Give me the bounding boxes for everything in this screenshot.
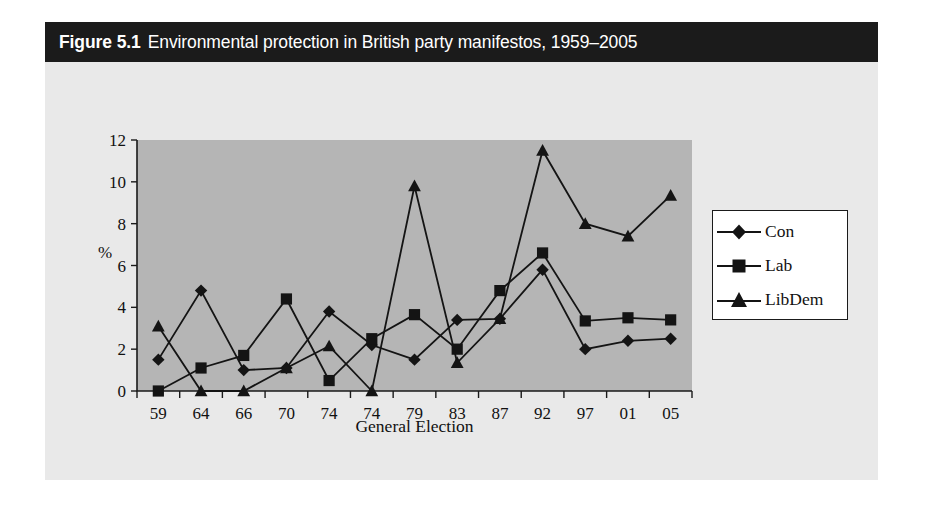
svg-text:10: 10 [109, 173, 126, 192]
data-point-lab-74 [366, 333, 377, 344]
data-point-lab-59 [153, 385, 164, 396]
data-point-con-64 [195, 284, 207, 296]
series-lab [153, 247, 677, 396]
data-point-con-66 [238, 364, 250, 376]
figure-number: Figure 5.1 [59, 32, 141, 53]
data-point-libdem-05 [664, 189, 677, 201]
data-point-con-97 [579, 343, 591, 355]
legend-marker-diamond-icon [713, 217, 765, 247]
data-point-libdem-59 [152, 320, 165, 332]
data-point-lab-70 [281, 293, 292, 304]
data-point-lab-92 [537, 247, 548, 258]
chart-series-group [152, 144, 677, 397]
svg-text:12: 12 [109, 131, 126, 150]
data-point-lab-74 [324, 375, 335, 386]
legend-item-libdem: LibDem [713, 283, 849, 317]
data-point-libdem-97 [579, 217, 592, 229]
chart-stage: 024681012 59646670747479838792970105 % G… [45, 62, 878, 480]
figure-container: Figure 5.1 Environmental protection in B… [45, 22, 878, 480]
y-axis-title: % [98, 243, 112, 262]
y-axis-tick-labels: 024681012 [109, 131, 127, 401]
svg-text:8: 8 [118, 215, 127, 234]
svg-text:2: 2 [118, 340, 127, 359]
svg-text:0: 0 [118, 382, 127, 401]
legend-label-lab: Lab [765, 257, 792, 275]
x-axis-title: General Election [137, 416, 692, 437]
data-point-lab-79 [409, 309, 420, 320]
data-point-lab-87 [494, 285, 505, 296]
legend-item-con: Con [713, 215, 849, 249]
svg-text:4: 4 [118, 298, 127, 317]
legend-marker-square-icon [713, 251, 765, 281]
data-point-lab-66 [238, 350, 249, 361]
data-point-con-59 [152, 353, 164, 365]
figure-title-bar: Figure 5.1 Environmental protection in B… [45, 22, 878, 62]
legend-label-con: Con [765, 223, 794, 241]
legend-marker-triangle-icon [713, 285, 765, 315]
figure-title-text: Environmental protection in British part… [148, 32, 638, 53]
data-point-lab-01 [622, 312, 633, 323]
data-point-con-05 [664, 333, 676, 345]
data-point-lab-64 [195, 362, 206, 373]
data-point-lab-05 [665, 314, 676, 325]
legend-label-libdem: LibDem [765, 291, 823, 309]
data-point-libdem-92 [536, 144, 549, 156]
data-point-lab-97 [580, 315, 591, 326]
data-point-libdem-74 [323, 340, 336, 352]
chart-legend: Con Lab LibDem [712, 210, 848, 320]
data-point-con-01 [622, 335, 634, 347]
legend-item-lab: Lab [713, 249, 849, 283]
svg-text:6: 6 [118, 257, 127, 276]
data-point-libdem-79 [408, 180, 421, 192]
